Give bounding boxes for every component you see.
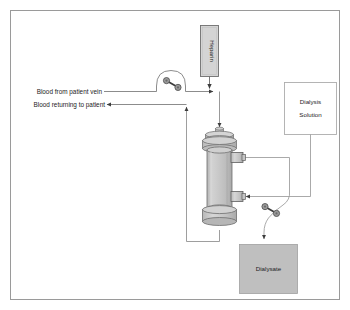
diagram-canvas: Heparin bbox=[0, 0, 350, 310]
dialysis-solution-label-line1: Dialysis bbox=[300, 98, 321, 105]
dialysis-solution-box: Dialysis Solution bbox=[285, 83, 337, 135]
blood-return-label: Blood returning to patient bbox=[34, 101, 106, 109]
heparin-label: Heparin bbox=[209, 40, 216, 62]
dialyzer-base bbox=[203, 206, 237, 226]
heparin-box: Heparin bbox=[201, 26, 219, 77]
hemodialysis-diagram: Heparin bbox=[0, 0, 350, 310]
dialysis-solution-label-line2: Solution bbox=[299, 111, 322, 118]
dialyzer-lower-port bbox=[231, 192, 246, 202]
dialysate-box: Dialysate bbox=[240, 245, 298, 294]
dialyzer-upper-port bbox=[231, 153, 246, 163]
dialysate-label: Dialysate bbox=[256, 265, 282, 272]
blood-inflow-label: Blood from patient vein bbox=[37, 88, 103, 96]
dialyzer-body bbox=[207, 147, 232, 211]
